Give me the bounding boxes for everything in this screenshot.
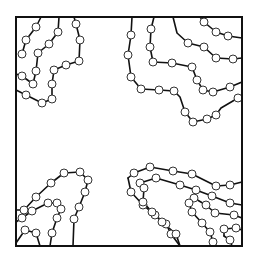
node-marker [32, 23, 40, 31]
node-marker [28, 207, 36, 215]
node-marker [212, 182, 220, 190]
node-marker [148, 208, 156, 216]
node-marker [212, 28, 220, 36]
node-marker [62, 61, 70, 69]
node-marker [18, 72, 26, 80]
node-marker [149, 58, 157, 66]
node-marker [18, 50, 26, 58]
node-marker [60, 169, 68, 177]
node-marker [211, 209, 219, 217]
node-marker [170, 87, 178, 95]
node-marker [200, 43, 208, 51]
node-marker [208, 192, 216, 200]
node-marker [32, 229, 40, 237]
node-marker [38, 99, 46, 107]
node-marker [198, 219, 206, 227]
node-marker [224, 32, 232, 40]
node-marker [192, 186, 200, 194]
node-marker [70, 215, 78, 223]
node-marker [18, 214, 26, 222]
node-marker [158, 218, 166, 226]
node-marker [21, 226, 29, 234]
node-marker [75, 203, 83, 211]
node-marker [188, 208, 196, 216]
node-marker [48, 229, 56, 237]
node-marker [172, 230, 180, 238]
contour-diagram [0, 0, 256, 262]
node-marker [84, 176, 92, 184]
node-marker [169, 167, 177, 175]
node-marker [202, 201, 210, 209]
node-marker [48, 80, 56, 88]
node-marker [81, 188, 89, 196]
node-marker [127, 73, 135, 81]
node-marker [29, 80, 37, 88]
node-marker [32, 67, 40, 75]
node-marker [226, 83, 234, 91]
node-marker [54, 28, 62, 36]
node-marker [146, 43, 154, 51]
node-marker [72, 20, 80, 28]
node-marker [220, 225, 228, 233]
nodes-layer [18, 18, 242, 246]
node-marker [130, 169, 138, 177]
node-marker [168, 59, 176, 67]
node-marker [140, 184, 148, 192]
node-marker [232, 224, 240, 232]
node-marker [45, 40, 53, 48]
node-marker [229, 55, 237, 63]
node-marker [226, 236, 234, 244]
node-marker [176, 181, 184, 189]
node-marker [127, 31, 135, 39]
node-marker [48, 95, 56, 103]
node-marker [152, 174, 160, 182]
contour-path-tl-3 [16, 17, 80, 103]
node-marker [124, 51, 132, 59]
node-marker [139, 198, 147, 206]
node-marker [226, 181, 234, 189]
node-marker [47, 179, 55, 187]
node-marker [76, 36, 84, 44]
node-marker [75, 57, 83, 65]
node-marker [193, 76, 201, 84]
node-marker [50, 66, 58, 74]
node-marker [188, 63, 196, 71]
node-marker [203, 115, 211, 123]
node-marker [212, 54, 220, 62]
contour-path-tl-1 [22, 17, 41, 54]
node-marker [230, 211, 238, 219]
node-marker [184, 39, 192, 47]
node-marker [44, 199, 52, 207]
node-marker [22, 91, 30, 99]
node-marker [146, 163, 154, 171]
node-marker [226, 199, 234, 207]
node-marker [185, 199, 193, 207]
node-marker [200, 18, 208, 26]
node-marker [155, 86, 163, 94]
node-marker [199, 86, 207, 94]
node-marker [234, 94, 242, 102]
node-marker [147, 25, 155, 33]
node-marker [32, 193, 40, 201]
node-marker [209, 88, 217, 96]
node-marker [209, 238, 217, 246]
node-marker [212, 111, 220, 119]
node-marker [189, 118, 197, 126]
node-marker [76, 168, 84, 176]
node-marker [34, 49, 42, 57]
node-marker [188, 170, 196, 178]
node-marker [20, 206, 28, 214]
node-marker [53, 214, 61, 222]
contour-path-br-1 [128, 167, 242, 186]
node-marker [206, 228, 214, 236]
node-marker [181, 108, 189, 116]
node-marker [22, 36, 30, 44]
node-marker [137, 85, 145, 93]
node-marker [127, 188, 135, 196]
node-marker [57, 205, 65, 213]
